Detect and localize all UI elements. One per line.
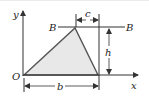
line-label-left: B — [48, 22, 56, 33]
y-axis-label: y — [12, 9, 19, 20]
height-label: h — [105, 47, 111, 58]
base-label: b — [57, 81, 63, 92]
line-label-right: B — [125, 22, 133, 33]
triangle-shape — [24, 28, 98, 75]
x-axis-label: x — [131, 80, 137, 91]
origin-label: O — [12, 71, 20, 82]
triangle-diagram: y x O B B c h b — [0, 0, 149, 96]
offset-label: c — [85, 8, 91, 19]
